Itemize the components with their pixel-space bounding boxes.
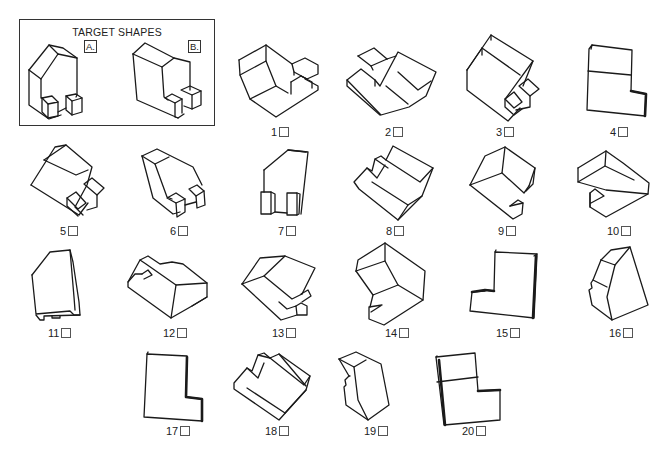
option-10: 10 — [607, 225, 631, 237]
option-7: 7 — [278, 225, 296, 237]
option-11-checkbox[interactable] — [61, 328, 71, 338]
option-15-checkbox[interactable] — [510, 328, 520, 338]
option-number: 3 — [496, 126, 502, 138]
option-17-checkbox[interactable] — [180, 426, 190, 436]
option-9-checkbox[interactable] — [506, 226, 516, 236]
option-10-checkbox[interactable] — [621, 226, 631, 236]
option-number: 20 — [462, 425, 474, 437]
option-8-checkbox[interactable] — [394, 226, 404, 236]
option-15: 15 — [496, 327, 520, 339]
option-number: 6 — [170, 225, 176, 237]
option-number: 19 — [364, 425, 376, 437]
option-number: 14 — [385, 327, 397, 339]
option-3-checkbox[interactable] — [504, 127, 514, 137]
option-3: 3 — [496, 126, 514, 138]
option-14: 14 — [385, 327, 409, 339]
option-number: 11 — [48, 327, 59, 339]
option-2-checkbox[interactable] — [393, 127, 403, 137]
option-19: 19 — [364, 425, 388, 437]
option-8: 8 — [386, 225, 404, 237]
option-18-checkbox[interactable] — [279, 426, 289, 436]
option-5: 5 — [60, 225, 78, 237]
option-number: 2 — [385, 126, 391, 138]
option-18: 18 — [265, 425, 289, 437]
option-number: 17 — [166, 425, 178, 437]
option-14-checkbox[interactable] — [399, 328, 409, 338]
option-16-checkbox[interactable] — [623, 328, 633, 338]
option-17: 17 — [166, 425, 190, 437]
option-number: 10 — [607, 225, 619, 237]
option-1-checkbox[interactable] — [279, 127, 289, 137]
option-number: 9 — [498, 225, 504, 237]
option-13-checkbox[interactable] — [286, 328, 296, 338]
option-number: 1 — [271, 126, 277, 138]
option-12-checkbox[interactable] — [177, 328, 187, 338]
option-2: 2 — [385, 126, 403, 138]
option-20-checkbox[interactable] — [476, 426, 486, 436]
option-5-checkbox[interactable] — [68, 226, 78, 236]
option-12: 12 — [163, 327, 187, 339]
option-20: 20 — [462, 425, 486, 437]
option-number: 5 — [60, 225, 66, 237]
option-13: 13 — [272, 327, 296, 339]
option-11: 11 — [48, 327, 71, 339]
option-19-shape — [0, 0, 665, 453]
option-16: 16 — [609, 327, 633, 339]
option-number: 13 — [272, 327, 284, 339]
option-4: 4 — [610, 126, 628, 138]
option-7-checkbox[interactable] — [286, 226, 296, 236]
option-19-checkbox[interactable] — [378, 426, 388, 436]
option-4-checkbox[interactable] — [618, 127, 628, 137]
option-9: 9 — [498, 225, 516, 237]
option-number: 4 — [610, 126, 616, 138]
option-number: 8 — [386, 225, 392, 237]
option-number: 18 — [265, 425, 277, 437]
option-1: 1 — [271, 126, 289, 138]
option-6: 6 — [170, 225, 188, 237]
option-number: 16 — [609, 327, 621, 339]
option-number: 7 — [278, 225, 284, 237]
option-number: 15 — [496, 327, 508, 339]
option-number: 12 — [163, 327, 175, 339]
option-6-checkbox[interactable] — [178, 226, 188, 236]
